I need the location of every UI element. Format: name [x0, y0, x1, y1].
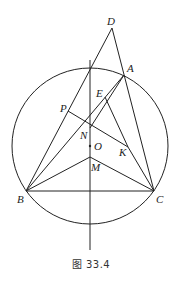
segment-a-b: [26, 75, 124, 191]
label-point-p: P: [59, 102, 67, 114]
label-point-e: E: [95, 87, 103, 99]
segment-e-k: [105, 97, 128, 147]
label-point-k: K: [118, 146, 127, 158]
figure-caption: 图 33.4: [0, 256, 182, 271]
segment-b-m: [26, 157, 90, 191]
label-point-o: O: [94, 140, 102, 152]
geometry-figure: DABCEPNOMK: [0, 0, 182, 283]
label-point-d: D: [106, 15, 115, 27]
label-point-a: A: [126, 62, 134, 74]
segment-d-c: [112, 28, 154, 191]
center-dot-o: [89, 145, 91, 147]
label-point-b: B: [17, 193, 24, 205]
line-segments: [26, 28, 154, 250]
label-point-m: M: [90, 161, 101, 173]
label-point-c: C: [156, 193, 164, 205]
label-point-n: N: [79, 129, 88, 141]
point-markers: [89, 145, 91, 147]
